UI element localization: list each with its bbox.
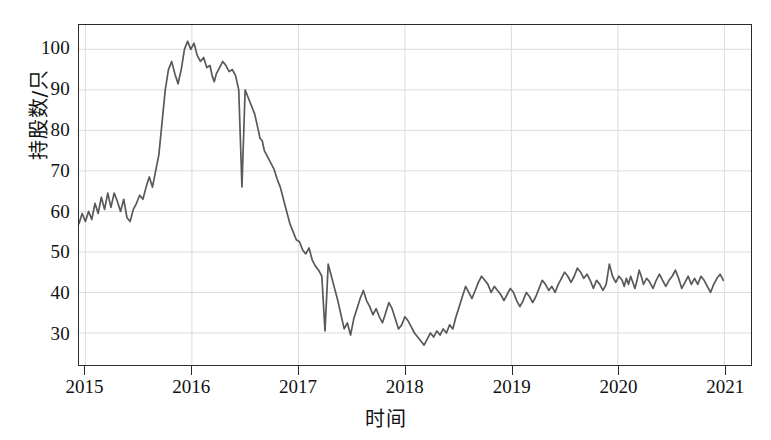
- x-tick-label: 2016: [172, 376, 210, 398]
- x-tick-label: 2015: [65, 376, 103, 398]
- x-tick-label: 2021: [706, 376, 744, 398]
- x-tick-mark: [618, 366, 619, 375]
- y-axis-tick-labels: 30405060708090100: [0, 24, 70, 366]
- x-tick-mark: [512, 366, 513, 375]
- y-tick-label: 30: [51, 323, 70, 345]
- x-tick-mark: [298, 366, 299, 375]
- x-tick-mark: [405, 366, 406, 375]
- x-tick-mark: [725, 366, 726, 375]
- y-tick-label: 100: [41, 37, 70, 59]
- plot-area: [78, 24, 752, 366]
- x-tick-mark: [191, 366, 192, 375]
- x-tick-label: 2017: [279, 376, 317, 398]
- y-tick-label: 40: [51, 282, 70, 304]
- x-tick-label: 2018: [386, 376, 424, 398]
- x-tick-label: 2019: [493, 376, 531, 398]
- figure-container: 持股数/只 30405060708090100 2015201620172018…: [0, 0, 771, 440]
- data-series-line: [79, 25, 751, 365]
- y-tick-label: 90: [51, 78, 70, 100]
- y-tick-label: 50: [51, 241, 70, 263]
- y-tick-label: 70: [51, 160, 70, 182]
- y-tick-label: 80: [51, 119, 70, 141]
- x-tick-mark: [84, 366, 85, 375]
- x-tick-label: 2020: [599, 376, 637, 398]
- x-axis-title: 时间: [0, 403, 771, 432]
- y-tick-label: 60: [51, 201, 70, 223]
